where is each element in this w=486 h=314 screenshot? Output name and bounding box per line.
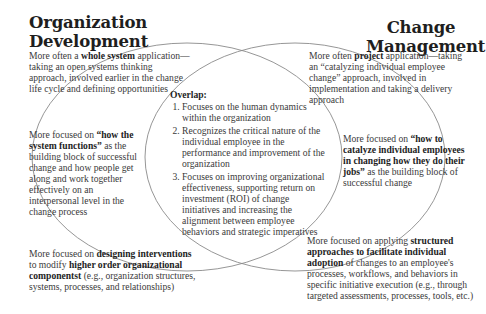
text-emphasis: project <box>354 50 383 61</box>
text-emphasis: designing interventions <box>96 248 191 259</box>
left-title-line1: Organization <box>29 13 148 32</box>
cm-focus-text: More focused on “how to catalyze individ… <box>343 133 469 188</box>
cm-adoption-text: More focused on applying structured appr… <box>307 235 483 301</box>
od-application-text: More often a whole system application—ta… <box>29 50 191 94</box>
text-emphasis: whole system <box>81 50 135 61</box>
od-focus-text: More focused on “how the system function… <box>29 129 141 217</box>
cm-application-text: More often project application—taking an… <box>309 50 469 105</box>
text-run: to modify <box>29 259 69 270</box>
text-run: More often <box>309 50 354 61</box>
text-run: More focused on <box>29 129 96 140</box>
overlap-item: Focuses on improving organizational effe… <box>182 171 325 237</box>
overlap-title: Overlap: <box>170 89 325 100</box>
left-title-line2: Development <box>29 32 148 51</box>
od-interventions-text: More focused on designing interventions … <box>29 248 201 292</box>
overlap-item: Focuses on the human dynamics within the… <box>182 101 325 123</box>
text-run: More focused on <box>343 133 410 144</box>
overlap-region: Overlap: Focuses on the human dynamics w… <box>170 89 325 239</box>
overlap-list: Focuses on the human dynamics within the… <box>170 101 325 237</box>
text-run: More focused on <box>29 248 96 259</box>
left-set-title: Organization Development <box>29 13 148 51</box>
text-run: More often a <box>29 50 81 61</box>
right-title-line1: Change <box>366 18 476 37</box>
overlap-item: Recognizes the critical nature of the in… <box>182 125 325 169</box>
text-run: as the building block of successful chan… <box>29 140 137 217</box>
